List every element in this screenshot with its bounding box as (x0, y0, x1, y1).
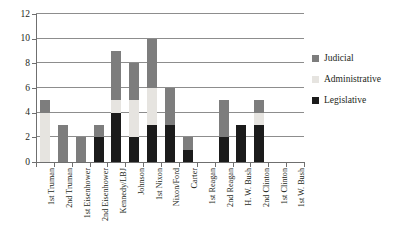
x-tick-mark (233, 163, 234, 167)
x-axis-labels: 1st Truman2nd Truman1st Eisenhower2nd Ei… (36, 168, 305, 238)
bar-segment-judicial[interactable] (94, 125, 104, 137)
bar-segment-judicial[interactable] (165, 88, 175, 125)
bar-segment-legislative[interactable] (236, 125, 246, 162)
y-tick-label: 8 (0, 59, 30, 69)
bar-stack[interactable] (94, 14, 104, 162)
x-tick-label: 1st Clinton (281, 168, 289, 204)
y-tick-label: 2 (0, 133, 30, 143)
x-tick-mark (54, 163, 55, 167)
bar-stack[interactable] (236, 14, 246, 162)
y-tick-mark (32, 88, 36, 89)
bar-segment-judicial[interactable] (254, 100, 264, 112)
x-tick-label: 1st Reagan (209, 168, 217, 204)
bar-stack[interactable] (219, 14, 229, 162)
plot-area (36, 14, 304, 162)
x-tick-mark (286, 163, 287, 167)
y-axis-line (36, 14, 37, 163)
bar-segment-legislative[interactable] (94, 137, 104, 162)
x-tick-mark (72, 163, 73, 167)
x-tick-label: 2nd Eisenhower (102, 168, 110, 221)
y-tick-mark (32, 39, 36, 40)
legend-item[interactable]: Judicial (312, 48, 408, 69)
x-tick-mark (197, 163, 198, 167)
bar-segment-legislative[interactable] (254, 125, 264, 162)
bar-segment-judicial[interactable] (58, 125, 68, 162)
y-tick-mark (32, 137, 36, 138)
bar-segment-judicial[interactable] (111, 51, 121, 100)
x-tick-label: 1st W. Bush (298, 168, 306, 207)
x-tick-mark (179, 163, 180, 167)
y-tick-label: 10 (0, 34, 30, 44)
bars-layer (36, 14, 304, 162)
y-tick-mark (32, 63, 36, 64)
legend-label: Administrative (324, 75, 381, 85)
x-tick-mark (90, 163, 91, 167)
x-tick-mark (143, 163, 144, 167)
bar-segment-legislative[interactable] (165, 125, 175, 162)
bar-stack[interactable] (40, 14, 50, 162)
y-tick-label: 0 (0, 158, 30, 168)
bar-stack[interactable] (290, 14, 300, 162)
bar-segment-judicial[interactable] (129, 63, 139, 100)
bar-stack[interactable] (58, 14, 68, 162)
bar-segment-judicial[interactable] (219, 100, 229, 137)
legend-swatch-icon (312, 55, 319, 62)
x-tick-label: 2nd Clinton (263, 168, 271, 207)
bar-stack[interactable] (147, 14, 157, 162)
bar-segment-legislative[interactable] (147, 125, 157, 162)
x-tick-label: 1st Nixon (156, 168, 164, 200)
x-tick-label: Carter (191, 168, 199, 188)
bar-segment-legislative[interactable] (183, 150, 193, 162)
x-tick-label: 2nd Truman (66, 168, 74, 208)
x-tick-mark (250, 163, 251, 167)
y-tick-label: 4 (0, 108, 30, 118)
legend-label: Legislative (324, 96, 366, 106)
x-tick-label: Nixon/Ford (173, 168, 181, 206)
bar-segment-administrative[interactable] (129, 100, 139, 137)
legend-item[interactable]: Legislative (312, 90, 408, 111)
x-tick-label: Kennedy/LBJ (120, 168, 128, 213)
legend-item[interactable]: Administrative (312, 69, 408, 90)
x-tick-label: Johnson (138, 168, 146, 195)
x-tick-label: 2nd Reagan (227, 168, 235, 207)
bar-segment-legislative[interactable] (219, 137, 229, 162)
x-tick-mark (161, 163, 162, 167)
y-tick-label: 12 (0, 10, 30, 20)
bar-segment-judicial[interactable] (40, 100, 50, 112)
bar-stack[interactable] (165, 14, 175, 162)
x-axis-ticks (36, 163, 305, 167)
y-tick-label: 6 (0, 84, 30, 94)
bar-stack[interactable] (272, 14, 282, 162)
bar-segment-legislative[interactable] (111, 113, 121, 162)
x-tick-label: 1st Eisenhower (84, 168, 92, 218)
legend-swatch-icon (312, 97, 319, 104)
bar-stack[interactable] (76, 14, 86, 162)
x-tick-mark (36, 163, 37, 167)
legend-label: Judicial (324, 54, 354, 64)
bar-segment-judicial[interactable] (183, 137, 193, 149)
legend-swatch-icon (312, 76, 319, 83)
x-tick-mark (268, 163, 269, 167)
y-tick-mark (32, 14, 36, 15)
bar-segment-legislative[interactable] (129, 137, 139, 162)
x-tick-label: 1st Truman (48, 168, 56, 205)
x-tick-mark (125, 163, 126, 167)
bar-segment-administrative[interactable] (254, 113, 264, 125)
bar-segment-administrative[interactable] (111, 100, 121, 112)
x-tick-mark (215, 163, 216, 167)
bar-segment-administrative[interactable] (40, 113, 50, 162)
bar-stack[interactable] (201, 14, 211, 162)
bar-stack[interactable] (183, 14, 193, 162)
x-tick-mark (304, 163, 305, 167)
x-tick-mark (107, 163, 108, 167)
bar-segment-administrative[interactable] (147, 88, 157, 125)
x-tick-label: H. W. Bush (245, 168, 253, 206)
stacked-bar-chart: 024681012 1st Truman2nd Truman1st Eisenh… (0, 0, 412, 238)
bar-segment-judicial[interactable] (147, 39, 157, 88)
bar-stack[interactable] (111, 14, 121, 162)
bar-stack[interactable] (129, 14, 139, 162)
y-tick-mark (32, 113, 36, 114)
bar-stack[interactable] (254, 14, 264, 162)
bar-segment-judicial[interactable] (76, 137, 86, 162)
legend: JudicialAdministrativeLegislative (312, 48, 408, 111)
